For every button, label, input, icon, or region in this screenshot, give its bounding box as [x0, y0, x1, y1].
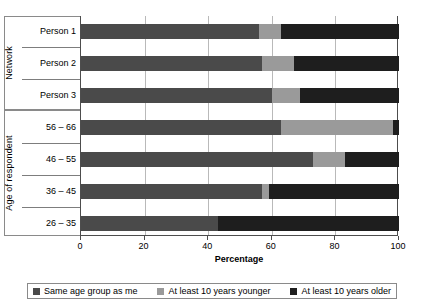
x-tick-80 [334, 236, 335, 240]
bar-segment [281, 120, 392, 135]
category-label-person-1: Person 1 [18, 27, 76, 36]
x-tick-label-20: 20 [129, 241, 159, 251]
bar-segment [81, 56, 262, 71]
bar-row [81, 184, 397, 199]
x-tick-100 [398, 236, 399, 240]
category-label-age-36-45: 36 – 45 [18, 187, 76, 196]
group-label-age: Age of respondent [0, 110, 18, 236]
bar-segment [81, 24, 259, 39]
legend-swatch-younger [157, 288, 164, 295]
bar-segment [81, 216, 218, 231]
bar-segment [218, 216, 399, 231]
chart-legend: Same age group as me At least 10 years y… [27, 283, 397, 299]
legend-swatch-same-age [33, 288, 40, 295]
bar-segment [81, 120, 281, 135]
bar-segment [345, 152, 399, 167]
bar-row [81, 88, 397, 103]
x-tick-label-40: 40 [192, 241, 222, 251]
bar-segment [81, 184, 262, 199]
bar-row [81, 24, 397, 39]
bar-segment [393, 120, 399, 135]
legend-label-younger: At least 10 years younger [168, 286, 270, 296]
bar-segment [272, 88, 301, 103]
bar-segment [281, 24, 399, 39]
category-separator-4 [22, 175, 80, 176]
bar-row [81, 216, 397, 231]
x-tick-label-60: 60 [256, 241, 286, 251]
group-label-age-text: Age of respondent [4, 135, 14, 210]
stacked-bar-chart: Network Age of respondent Person 1 Perso… [0, 0, 421, 308]
bar-row [81, 56, 397, 71]
x-tick-0 [80, 236, 81, 240]
x-tick-20 [144, 236, 145, 240]
category-separator-3 [22, 143, 80, 144]
category-separator-1 [22, 47, 80, 48]
bar-segment [81, 88, 272, 103]
bar-segment [300, 88, 399, 103]
category-label-person-2: Person 2 [18, 59, 76, 68]
legend-item-younger: At least 10 years younger [157, 286, 270, 296]
x-tick-label-0: 0 [65, 241, 95, 251]
bar-segment [81, 152, 313, 167]
x-tick-label-80: 80 [319, 241, 349, 251]
category-separator-5 [22, 207, 80, 208]
x-axis-title: Percentage [80, 254, 398, 264]
bar-row [81, 152, 397, 167]
x-tick-40 [207, 236, 208, 240]
bar-segment [269, 184, 399, 199]
legend-label-older: At least 10 years older [301, 286, 391, 296]
x-tick-60 [271, 236, 272, 240]
bar-segment [262, 56, 294, 71]
bar-segment [259, 24, 281, 39]
legend-label-same-age: Same age group as me [44, 286, 138, 296]
legend-item-same-age: Same age group as me [33, 286, 138, 296]
category-label-age-46-55: 46 – 55 [18, 155, 76, 164]
group-label-network: Network [0, 16, 18, 110]
bar-segment [294, 56, 399, 71]
category-label-age-56-66: 56 – 66 [18, 123, 76, 132]
bar-segment [313, 152, 345, 167]
x-tick-label-100: 100 [383, 241, 413, 251]
legend-item-older: At least 10 years older [290, 286, 391, 296]
bar-row [81, 120, 397, 135]
category-separator-2 [22, 79, 80, 80]
legend-swatch-older [290, 288, 297, 295]
group-label-network-text: Network [4, 46, 14, 80]
category-label-age-26-35: 26 – 35 [18, 219, 76, 228]
plot-area [80, 16, 398, 236]
category-label-person-3: Person 3 [18, 91, 76, 100]
